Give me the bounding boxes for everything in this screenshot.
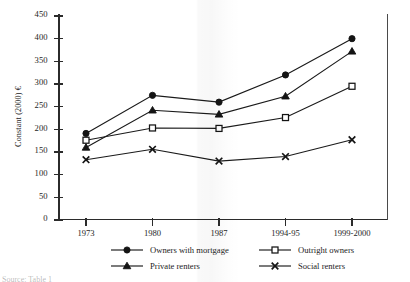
legend-label: Social renters: [298, 261, 345, 271]
figure-housing-costs-line-chart: Constant (2000) € 0501001502002503003504…: [0, 0, 410, 282]
data-point-marker-open-square: [150, 125, 156, 131]
legend-marker-filled-circle-icon: [110, 244, 144, 256]
y-axis-tick-label: 200: [35, 123, 48, 133]
data-point-marker-filled-triangle: [149, 106, 157, 113]
x-axis-tick-label: 1994-95: [271, 228, 300, 238]
x-axis-tick-label: 1987: [210, 228, 227, 238]
data-point-marker-filled-triangle: [348, 48, 356, 55]
data-point-marker-open-square: [283, 115, 289, 121]
y-axis-tick-label: 150: [35, 145, 48, 155]
legend-entry-outright-owners: Outright owners: [258, 243, 354, 257]
series-line: [86, 140, 352, 161]
y-axis-tick-label: 300: [35, 77, 48, 87]
y-axis-tick-label: 250: [35, 100, 48, 110]
legend-marker-filled-triangle-icon: [110, 260, 144, 272]
plot-area: 050100150200250300350400450 197319801987…: [58, 14, 388, 220]
data-point-marker-filled-triangle: [282, 92, 290, 99]
data-point-marker-filled-circle: [282, 72, 288, 78]
legend-label: Owners with mortgage: [150, 245, 229, 255]
legend-entry-owners-with-mortgage: Owners with mortgage: [110, 243, 229, 257]
data-point-marker-filled-circle: [83, 130, 89, 136]
y-axis-tick-label: 0: [43, 213, 47, 223]
data-point-marker-filled-circle: [124, 247, 130, 253]
legend-marker-open-square-icon: [258, 244, 292, 256]
source-note: Source: Table 1: [2, 275, 52, 282]
legend-entry-private-renters: Private renters: [110, 259, 200, 273]
data-point-marker-filled-triangle: [82, 144, 90, 151]
data-point-marker-open-square: [83, 137, 89, 143]
series-social-renters: [83, 136, 356, 164]
data-point-marker-open-square: [216, 125, 222, 131]
y-axis-tick-label: 400: [35, 32, 48, 42]
y-axis-tick-label: 350: [35, 55, 48, 65]
legend-label: Outright owners: [298, 245, 354, 255]
data-point-marker-filled-circle: [349, 36, 355, 42]
data-point-marker-open-square: [272, 247, 278, 253]
series-owners-with-mortgage: [83, 36, 355, 137]
series-lines-layer: [58, 14, 388, 220]
chart-legend: Owners with mortgage Private renters Out…: [58, 243, 403, 275]
y-axis-tick-label: 100: [35, 168, 48, 178]
x-axis-tick-label: 1980: [144, 228, 161, 238]
data-point-marker-filled-circle: [149, 92, 155, 98]
data-point-marker-filled-circle: [216, 99, 222, 105]
y-axis-tick-label: 50: [39, 191, 48, 201]
x-axis-tick-label: 1973: [77, 228, 94, 238]
legend-entry-social-renters: Social renters: [258, 259, 345, 273]
y-axis-title: Constant (2000) €: [14, 47, 23, 187]
legend-label: Private renters: [150, 261, 200, 271]
data-point-marker-open-square: [349, 83, 355, 89]
series-line: [86, 39, 352, 134]
x-axis-tick-label: 1999-2000: [333, 228, 370, 238]
y-axis-tick-label: 450: [35, 9, 48, 19]
legend-marker-cross-icon: [258, 260, 292, 272]
